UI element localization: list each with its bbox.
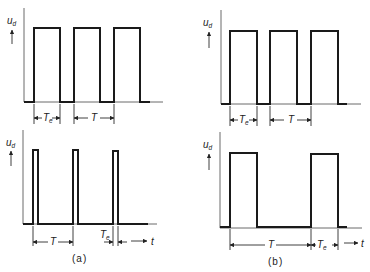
pulse-waveform xyxy=(23,150,148,224)
period-label: T xyxy=(288,114,295,125)
panel-a-top: ud Te T xyxy=(7,8,163,124)
pulse-width-label: Te xyxy=(100,229,110,241)
y-axis-label: ud xyxy=(7,15,17,27)
period-label: T xyxy=(268,239,275,250)
pulse-width-label: Te xyxy=(43,112,53,124)
pulse-width-label: Te xyxy=(317,239,327,251)
panel-b-top: ud Te T xyxy=(203,10,361,126)
panel-a-bottom: ud T Te t (a) xyxy=(6,130,157,264)
panel-b-bottom: ud T Te t (b) xyxy=(203,132,365,267)
time-axis-label: t xyxy=(151,236,155,247)
pulse-width-diagram: ud Te T ud Te T ud xyxy=(0,0,370,272)
y-axis-label: ud xyxy=(6,137,16,149)
pulse-waveform xyxy=(220,153,347,227)
pulse-width-label: Te xyxy=(239,114,249,126)
y-axis-label: ud xyxy=(203,139,213,151)
pulse-waveform xyxy=(24,28,150,102)
period-label: T xyxy=(91,112,98,123)
y-axis-label: ud xyxy=(203,17,213,29)
pulse-waveform xyxy=(221,31,347,104)
caption-b: (b) xyxy=(268,256,283,267)
caption-a: (a) xyxy=(72,253,87,264)
period-label: T xyxy=(50,236,57,247)
time-axis-label: t xyxy=(361,238,365,249)
